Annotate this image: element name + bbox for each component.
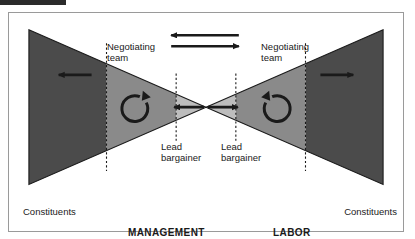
page-top-crop-artifact bbox=[0, 0, 66, 5]
label-lead-bargainer-right: Lead bargainer bbox=[221, 141, 261, 163]
label-side-management: MANAGEMENT bbox=[128, 227, 205, 238]
figure-frame: Negotiating team Negotiating team Lead b… bbox=[8, 12, 404, 232]
right-band-constituents bbox=[305, 23, 387, 201]
label-constituents-left: Constituents bbox=[23, 206, 76, 217]
left-band-constituents bbox=[27, 23, 107, 201]
label-negotiating-team-left: Negotiating team bbox=[107, 41, 155, 63]
label-constituents-right: Constituents bbox=[344, 206, 397, 217]
label-negotiating-team-right: Negotiating team bbox=[261, 41, 309, 63]
bowtie-diagram-canvas bbox=[9, 13, 403, 231]
right-band-lead-bargainer bbox=[202, 23, 236, 201]
left-band-lead-bargainer bbox=[176, 23, 210, 201]
label-lead-bargainer-left: Lead bargainer bbox=[161, 141, 201, 163]
label-side-labor: LABOR bbox=[273, 227, 311, 238]
